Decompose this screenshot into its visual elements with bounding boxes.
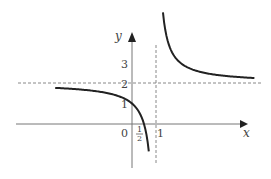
right-branch-curve [163, 12, 254, 78]
svg-text:1: 1 [137, 125, 142, 134]
y-axis-arrow-icon [128, 32, 136, 42]
x-tick-half: 1 2 [136, 125, 143, 143]
svg-text:2: 2 [137, 134, 142, 143]
y-tick-1: 1 [121, 98, 128, 111]
y-axis-label: y [114, 29, 122, 43]
x-axis-label: x [243, 126, 250, 140]
y-tick-2: 2 [121, 78, 128, 91]
x-tick-1: 1 [157, 127, 164, 140]
left-branch-curve [55, 88, 149, 151]
y-tick-3: 3 [121, 58, 128, 71]
origin-label: 0 [121, 127, 128, 140]
function-graph: y x 3 2 1 0 1 2 1 [0, 0, 271, 179]
